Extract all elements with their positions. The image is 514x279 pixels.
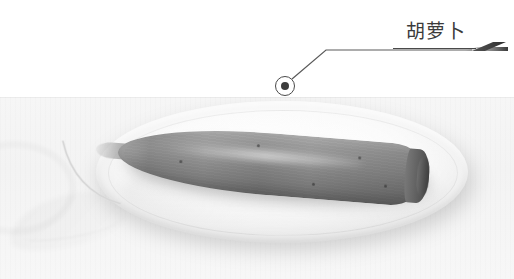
annotation-label: 胡萝卜 — [406, 19, 466, 43]
leader-line — [292, 50, 472, 79]
photo-top-edge — [0, 97, 514, 98]
carrot-texture — [122, 124, 422, 206]
annotated-photo-figure: 胡萝卜 — [0, 0, 514, 279]
photo-region — [0, 97, 514, 279]
callout-dot-core-icon — [281, 82, 289, 90]
label-underline — [393, 48, 476, 49]
